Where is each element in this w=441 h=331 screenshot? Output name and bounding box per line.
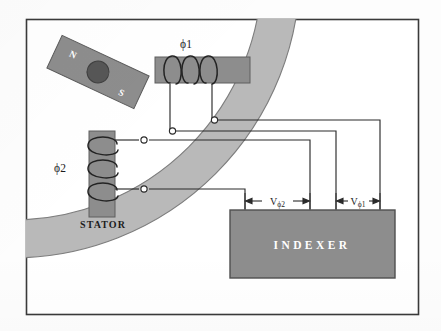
terminal-phi1-right	[211, 117, 217, 123]
coil-phase2-core	[89, 131, 115, 217]
figure-root: ϕ1 ϕ2 STATOR N S	[0, 0, 441, 331]
coil-phase1	[155, 56, 250, 84]
motor-indexer-diagram: ϕ1 ϕ2 STATOR N S	[0, 0, 441, 331]
terminal-phi2-top	[141, 137, 147, 143]
coil-phase1-label: ϕ1	[180, 38, 192, 51]
indexer-label: INDEXER	[274, 239, 351, 251]
stator-label: STATOR	[80, 219, 126, 230]
terminal-phi1-left	[169, 128, 175, 134]
coil-phase2-label: ϕ2	[54, 162, 66, 175]
coil-phase2	[88, 131, 118, 217]
terminal-phi2-bottom	[141, 186, 147, 192]
indexer-box: INDEXER	[230, 210, 395, 278]
